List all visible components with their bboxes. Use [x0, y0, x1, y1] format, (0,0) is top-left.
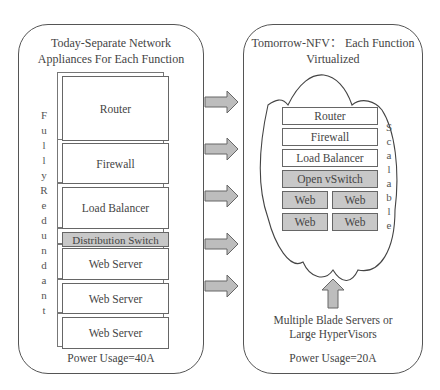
- hardware-label-line2: Large HyperVisors: [243, 328, 423, 340]
- virtual-web-3: Web: [282, 213, 328, 231]
- virtual-router: Router: [282, 107, 378, 125]
- virtual-web-1: Web: [282, 191, 328, 209]
- right-arrow-icon: [205, 91, 238, 297]
- right-power-usage: Power Usage=20A: [243, 352, 423, 364]
- right-title-line1: Tomorrow-NFV： Each Function: [243, 36, 423, 51]
- scalable-label: Scalable: [383, 120, 395, 232]
- virtual-firewall: Firewall: [282, 128, 378, 146]
- virtual-web-2: Web: [332, 191, 378, 209]
- virtual-load-balancer: Load Balancer: [282, 149, 378, 167]
- open-vswitch: Open vSwitch: [282, 170, 378, 188]
- hardware-label-line1: Multiple Blade Servers or: [243, 314, 423, 326]
- right-title-line2: Virtualized: [243, 52, 423, 67]
- virtual-web-4: Web: [332, 213, 378, 231]
